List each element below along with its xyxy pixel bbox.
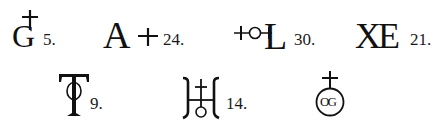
number-label: 14. bbox=[226, 95, 247, 112]
letters-xe: XE bbox=[355, 18, 397, 54]
cross-icon bbox=[137, 26, 159, 48]
number-label: 21. bbox=[410, 31, 431, 48]
letters-og: OG bbox=[320, 95, 335, 108]
number-label: 24. bbox=[163, 31, 184, 48]
letter-l: L bbox=[264, 17, 287, 55]
t-circle-icon bbox=[57, 72, 91, 118]
number-label: 30. bbox=[294, 31, 315, 48]
cross-icon bbox=[20, 9, 40, 31]
number-label: 5. bbox=[43, 31, 56, 48]
letter-a: A bbox=[103, 16, 130, 54]
brackets-cross-circle-icon bbox=[180, 76, 222, 120]
number-label: 9. bbox=[90, 95, 103, 112]
